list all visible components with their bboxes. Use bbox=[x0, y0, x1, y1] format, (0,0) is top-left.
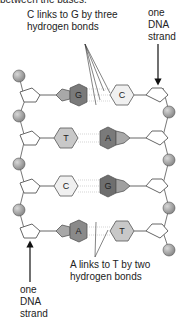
cg-pointer-lines bbox=[85, 44, 110, 105]
phosphate-icon bbox=[163, 202, 175, 214]
sugar-icon bbox=[146, 88, 168, 102]
phosphate-icon bbox=[13, 204, 25, 216]
base-pair-row-2: T A bbox=[20, 127, 168, 149]
phosphate-icon bbox=[13, 70, 25, 82]
phosphate-icon bbox=[163, 154, 175, 166]
svg-text:G: G bbox=[104, 181, 111, 191]
svg-text:T: T bbox=[119, 226, 125, 236]
phosphate-icon bbox=[163, 106, 175, 118]
svg-text:A: A bbox=[75, 226, 81, 236]
svg-text:C: C bbox=[119, 90, 126, 100]
svg-text:C: C bbox=[63, 181, 70, 191]
phosphate-icon bbox=[13, 110, 25, 122]
phosphate-icon bbox=[163, 244, 175, 256]
phosphate-icon bbox=[13, 158, 25, 170]
base-pair-row-4: A T bbox=[20, 220, 168, 242]
svg-text:A: A bbox=[105, 133, 111, 143]
svg-text:T: T bbox=[63, 133, 69, 143]
base-pair-row-3: C G bbox=[20, 175, 168, 197]
svg-text:G: G bbox=[75, 90, 82, 100]
dna-diagram: G C T A C bbox=[0, 0, 188, 324]
